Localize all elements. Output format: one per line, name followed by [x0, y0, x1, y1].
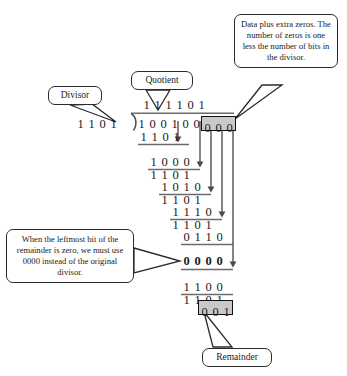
callout-remainder-label: Remainder	[216, 352, 258, 362]
zero-rule-pointer	[134, 248, 180, 273]
callout-zero-divisor-rule: When the leftmost bit of the remainder i…	[6, 229, 134, 283]
bring-down-arrows	[178, 121, 233, 264]
quotient-pointer	[146, 90, 170, 110]
callout-data-plus-zeros: Data plus extra zeros. The number of zer…	[234, 14, 338, 68]
divisor-pointer	[70, 104, 116, 122]
division-bracket	[131, 113, 234, 130]
callout-quotient-label: Quotient	[145, 75, 178, 85]
callout-remainder: Remainder	[202, 348, 272, 367]
remainder-pointer	[204, 312, 232, 347]
callout-data-label: Data plus extra zeros. The number of zer…	[241, 19, 331, 62]
crc-division-diagram: Divisor Quotient Data plus extra zeros. …	[0, 0, 347, 376]
callout-divisor: Divisor	[48, 86, 102, 105]
callout-zero-rule-label: When the leftmost bit of the remainder i…	[17, 234, 123, 277]
subtraction-rules	[138, 145, 233, 295]
data-zeros-pointer	[235, 85, 282, 119]
callout-divisor-label: Divisor	[61, 90, 90, 100]
callout-quotient: Quotient	[131, 71, 193, 90]
